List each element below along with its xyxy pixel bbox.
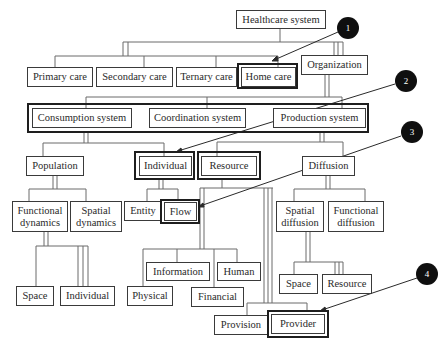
node-provision: Provision [214, 315, 268, 335]
node-functional-dynamics: Functional dynamics [12, 201, 68, 232]
callout-badge-2: 2 [395, 70, 417, 92]
node-consumption-system: Consumption system [32, 108, 132, 128]
node-resource-bottom: Resource [322, 274, 372, 294]
node-ternary-care: Ternary care [176, 67, 237, 87]
node-space-left: Space [16, 286, 54, 306]
healthcare-system-diagram: Healthcare system Primary care Secondary… [0, 0, 448, 351]
node-flow: Flow [164, 202, 197, 221]
node-physical: Physical [127, 286, 173, 306]
node-spatial-dynamics: Spatial dynamics [70, 201, 122, 232]
node-organization: Organization [301, 55, 368, 75]
callout-badge-1: 1 [337, 17, 359, 39]
node-provider: Provider [271, 314, 325, 334]
node-production-system: Production system [273, 108, 366, 128]
node-financial: Financial [191, 287, 244, 307]
node-primary-care: Primary care [27, 67, 93, 87]
node-population: Population [26, 156, 84, 176]
node-resource: Resource [201, 156, 257, 176]
node-coordination-system: Coordination system [149, 108, 246, 128]
callout-badge-4: 4 [416, 263, 438, 285]
node-individual-bottom: Individual [60, 286, 115, 306]
callout-badge-3: 3 [401, 121, 423, 143]
node-healthcare-system: Healthcare system [236, 10, 326, 29]
node-home-care: Home care [241, 67, 296, 87]
node-secondary-care: Secondary care [96, 67, 173, 87]
node-spatial-diffusion: Spatial diffusion [276, 201, 324, 232]
node-diffusion: Diffusion [302, 156, 355, 176]
node-human: Human [217, 262, 261, 281]
node-functional-diffusion: Functional diffusion [328, 201, 384, 232]
node-individual: Individual [139, 156, 192, 176]
node-entity: Entity [124, 201, 162, 221]
node-space-right: Space [279, 274, 318, 294]
node-information: Information [146, 262, 210, 281]
